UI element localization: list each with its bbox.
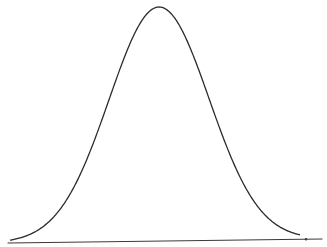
bell-curve-diagram [0, 0, 327, 247]
background [0, 0, 327, 247]
baseline-dot [305, 238, 307, 240]
